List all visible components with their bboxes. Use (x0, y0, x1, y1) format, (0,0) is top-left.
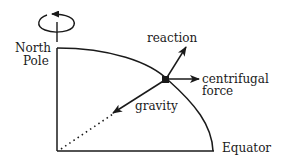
north-pole-label: North (15, 41, 51, 55)
radius-dotted-line (61, 114, 113, 149)
reaction-arrow (166, 47, 186, 79)
north-pole-label-2: Pole (23, 54, 49, 68)
gravity-label: gravity (135, 99, 178, 113)
reaction-label: reaction (147, 31, 198, 45)
centrifugal-label-2: force (202, 84, 233, 98)
earth-forces-diagram: North Pole reaction centrifugal force gr… (0, 0, 283, 161)
equator-label: Equator (222, 141, 271, 155)
rotation-arrow-icon (39, 14, 75, 42)
